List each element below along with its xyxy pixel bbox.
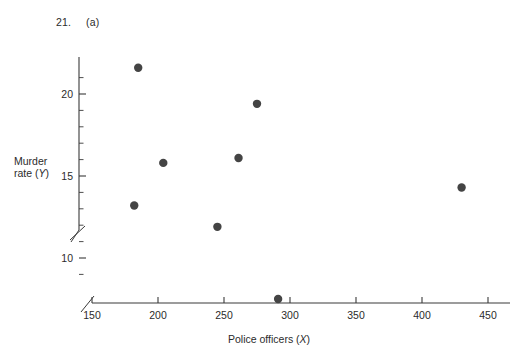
x-tick-label: 250 xyxy=(215,309,233,321)
y-axis-title-text: rate ( xyxy=(14,167,39,179)
x-tick-label: 150 xyxy=(83,309,101,321)
x-tick-label: 300 xyxy=(281,309,299,321)
y-axis-title-line2: rate (Y) xyxy=(14,167,49,179)
data-point xyxy=(234,154,242,162)
y-tick-label: 20 xyxy=(51,88,73,100)
x-axis-title: Police officers (X) xyxy=(228,333,310,345)
data-point xyxy=(253,100,261,108)
x-axis-title-close: ) xyxy=(307,333,311,345)
x-tick-label: 450 xyxy=(479,309,497,321)
y-axis-title: Murderrate (Y) xyxy=(14,155,49,179)
scatter-plot-figure: 21. (a) 150200250300350400450 101520 Pol… xyxy=(0,0,528,361)
x-axis-title-variable: X xyxy=(300,333,307,345)
y-axis-break-mark-2 xyxy=(71,230,79,242)
data-point xyxy=(213,223,221,231)
data-point xyxy=(159,159,167,167)
ticks-group xyxy=(79,78,488,303)
data-point xyxy=(274,295,282,303)
data-point xyxy=(457,183,465,191)
y-axis-title-variable: Y xyxy=(39,167,46,179)
x-tick-label: 200 xyxy=(149,309,167,321)
data-point xyxy=(134,64,142,72)
y-axis-title-close: ) xyxy=(46,167,50,179)
data-points-group xyxy=(130,64,466,304)
x-axis-title-text: Police officers ( xyxy=(228,333,300,345)
y-tick-label: 10 xyxy=(51,252,73,264)
x-tick-label: 350 xyxy=(347,309,365,321)
x-tick-label: 400 xyxy=(413,309,431,321)
data-point xyxy=(130,201,138,209)
axis-group xyxy=(70,57,510,312)
y-tick-label: 15 xyxy=(51,170,73,182)
plot-canvas xyxy=(0,0,528,361)
y-axis-title-line1: Murder xyxy=(14,155,49,167)
